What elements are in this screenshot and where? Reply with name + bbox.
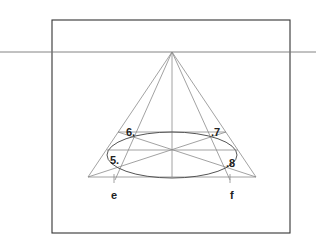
point-label-5: 5. [110,155,119,166]
point-label-6: 6. [126,127,135,138]
perspective-diagram [0,0,316,243]
base-label-f: f [230,190,234,201]
base-label-e: e [111,190,117,201]
point-label-7: .7 [211,127,220,138]
point-label-8: .8 [226,158,235,169]
